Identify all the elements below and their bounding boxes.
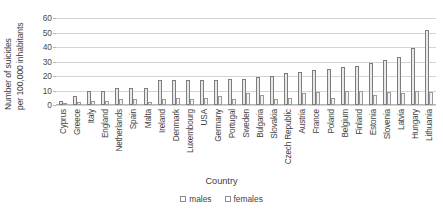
bar-females xyxy=(345,91,349,106)
y-axis-tick-label: 0 xyxy=(47,100,52,110)
bar-females xyxy=(316,92,320,105)
x-axis-label-lithuania: Lithuania xyxy=(425,109,434,141)
bar-females xyxy=(190,99,194,105)
x-axis-label-belgium: Belgium xyxy=(340,109,349,138)
bar-group xyxy=(394,18,408,105)
bar-group xyxy=(309,18,323,105)
x-axis-label-cell: Spain xyxy=(126,107,140,169)
chart-legend: malesfemales xyxy=(0,194,443,204)
x-axis-label-cell: Slovenia xyxy=(380,107,394,169)
bar-females xyxy=(246,93,250,105)
bar-group xyxy=(253,18,267,105)
x-axis-label-cell: Lithuania xyxy=(422,107,436,169)
bar-females xyxy=(387,92,391,105)
x-axis-label-hungary: Hungary xyxy=(410,109,419,139)
x-axis-label-cell: Germany xyxy=(211,107,225,169)
x-axis-label-cyprus: Cyprus xyxy=(59,109,68,134)
x-axis-label-spain: Spain xyxy=(129,109,138,129)
y-axis-title: Number of suicides per 100,000 inhabitan… xyxy=(0,0,36,112)
x-axis-label-cell: England xyxy=(98,107,112,169)
bar-group xyxy=(267,18,281,105)
x-axis-label-cell: Finland xyxy=(352,107,366,169)
x-axis-label-cell: Denmark xyxy=(169,107,183,169)
legend-swatch-icon xyxy=(225,196,231,202)
legend-swatch-icon xyxy=(180,196,186,202)
x-axis-label-cell: Poland xyxy=(323,107,337,169)
bar-group xyxy=(98,18,112,105)
bar-group xyxy=(211,18,225,105)
y-axis-tick-label: 40 xyxy=(43,42,52,52)
bar-group xyxy=(281,18,295,105)
y-axis-tick-label: 10 xyxy=(43,86,52,96)
x-axis-label-cell: Latvia xyxy=(394,107,408,169)
x-axis-label-netherlands: Netherlands xyxy=(115,109,124,152)
x-axis-label-czech-republic: Czech Republic xyxy=(284,109,293,164)
x-axis-label-cell: Cyprus xyxy=(56,107,70,169)
bar-group xyxy=(70,18,84,105)
bar-group xyxy=(183,18,197,105)
bar-females xyxy=(77,102,81,105)
bar-group xyxy=(422,18,436,105)
bar-females xyxy=(429,92,433,105)
x-axis-label-cell: Hungary xyxy=(408,107,422,169)
x-axis-label-cell: Bulgaria xyxy=(253,107,267,169)
bar-females xyxy=(373,95,377,105)
x-axis-label-austria: Austria xyxy=(298,109,307,133)
x-axis-label-cell: Slovakia xyxy=(267,107,281,169)
y-axis-tick-label: 60 xyxy=(43,13,52,23)
bar-females xyxy=(91,101,95,105)
bar-females xyxy=(105,101,109,105)
x-axis-label-cell: Czech Republic xyxy=(281,107,295,169)
x-axis-label-portugal: Portugal xyxy=(227,109,236,138)
bar-group xyxy=(225,18,239,105)
y-axis-tick-mark xyxy=(53,105,56,106)
x-axis-label-greece: Greece xyxy=(73,109,82,135)
bar-females xyxy=(260,95,264,105)
bar-females xyxy=(176,98,180,105)
bar-group xyxy=(56,18,70,105)
bar-group xyxy=(140,18,154,105)
x-axis-label-cell: Italy xyxy=(84,107,98,169)
bar-females xyxy=(133,99,137,105)
x-axis-label-cell: USA xyxy=(197,107,211,169)
bar-group xyxy=(126,18,140,105)
bar-group xyxy=(408,18,422,105)
bar-group xyxy=(338,18,352,105)
bar-females xyxy=(415,91,419,106)
gridline xyxy=(56,105,436,106)
y-axis-title-line-2: per 100,000 inhabitants xyxy=(15,22,25,110)
legend-item-males[interactable]: males xyxy=(180,194,211,204)
bar-females xyxy=(288,98,292,105)
y-axis-title-line-1: Number of suicides xyxy=(3,38,13,110)
x-axis-label-italy: Italy xyxy=(87,109,96,123)
y-axis-tick-label: 20 xyxy=(43,71,52,81)
x-axis-label-england: England xyxy=(101,109,110,138)
x-axis-label-cell: Luxembourg xyxy=(183,107,197,169)
y-axis-tick-label: 30 xyxy=(43,57,52,67)
x-axis-label-ireland: Ireland xyxy=(157,109,166,133)
x-axis-label-cell: Malta xyxy=(140,107,154,169)
bar-group xyxy=(155,18,169,105)
bar-females xyxy=(359,91,363,106)
bar-group xyxy=(380,18,394,105)
x-axis-label-cell: Portugal xyxy=(225,107,239,169)
bar-group xyxy=(239,18,253,105)
bar-group xyxy=(169,18,183,105)
bar-females xyxy=(274,99,278,105)
x-axis-label-poland: Poland xyxy=(326,109,335,134)
legend-item-females[interactable]: females xyxy=(225,194,263,204)
bar-females xyxy=(148,102,152,105)
legend-label: males xyxy=(189,194,211,204)
bar-females xyxy=(218,96,222,105)
legend-label: females xyxy=(234,194,263,204)
x-axis-tick-labels: CyprusGreeceItalyEnglandNetherlandsSpain… xyxy=(56,107,436,169)
x-axis-label-denmark: Denmark xyxy=(171,109,180,141)
bar-group xyxy=(295,18,309,105)
suicide-rate-bar-chart: Number of suicides per 100,000 inhabitan… xyxy=(0,0,443,217)
x-axis-label-cell: Belgium xyxy=(338,107,352,169)
x-axis-label-slovakia: Slovakia xyxy=(270,109,279,139)
x-axis-label-cell: France xyxy=(309,107,323,169)
bar-group xyxy=(352,18,366,105)
bar-females xyxy=(119,99,123,105)
bar-females xyxy=(204,98,208,105)
